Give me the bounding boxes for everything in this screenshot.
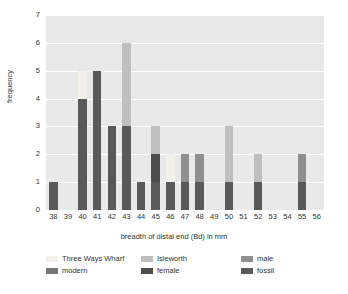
bar-44 (137, 182, 145, 210)
bar-48 (195, 154, 203, 210)
x-tick-label: 43 (119, 212, 134, 222)
bar-segment-isleworth (122, 43, 130, 127)
x-tick-label: 51 (236, 212, 251, 222)
legend-swatch-icon (46, 268, 58, 274)
chart-legend: Three Ways WharfIsleworthmalemodernfemal… (46, 254, 336, 284)
bar-segment-fossil (298, 182, 306, 210)
legend-label: Three Ways Wharf (62, 254, 124, 263)
legend-swatch-icon (141, 268, 153, 274)
y-tick-label: 7 (6, 11, 40, 19)
x-tick-label: 49 (207, 212, 222, 222)
x-tick-label: 46 (163, 212, 178, 222)
x-tick-label: 56 (309, 212, 324, 222)
x-axis-ticks: 38394041424344454647484950515253545556 (46, 212, 324, 224)
bar-segment-fossil (49, 182, 57, 210)
legend-label: male (257, 254, 273, 263)
bar-segment-fossil (225, 182, 233, 210)
x-tick-label: 41 (90, 212, 105, 222)
bar-segment-fossil (166, 182, 174, 210)
legend-label: fossil (257, 266, 274, 275)
plot-area (46, 15, 324, 210)
legend-item-fossil[interactable]: fossil (241, 266, 274, 275)
bar-segment-fossil (195, 182, 203, 210)
legend-label: modern (62, 266, 87, 275)
x-tick-label: 44 (134, 212, 149, 222)
bar-40 (78, 71, 86, 210)
legend-item-male[interactable]: male (241, 254, 273, 263)
legend-swatch-icon (241, 256, 253, 262)
y-axis-label: frequency (5, 52, 14, 122)
legend-item-three-ways-wharf[interactable]: Three Ways Wharf (46, 254, 124, 263)
bar-segment-fossil (78, 99, 86, 210)
legend-label: female (157, 266, 180, 275)
chart-figure: 01234567 frequency 383940414243444546474… (0, 0, 348, 294)
bar-47 (181, 154, 189, 210)
gridline (46, 126, 324, 127)
gridline (46, 15, 324, 16)
x-axis-label: breadth of distal end (Bd) in mm (0, 232, 348, 241)
bar-52 (254, 154, 262, 210)
x-tick-label: 40 (75, 212, 90, 222)
x-tick-label: 47 (178, 212, 193, 222)
bar-segment-fossil (122, 126, 130, 210)
bar-segment-fossil (151, 182, 159, 210)
bar-segment-female (151, 154, 159, 182)
x-tick-label: 38 (46, 212, 61, 222)
legend-swatch-icon (46, 256, 58, 262)
bar-segment-three-ways-wharf (166, 154, 174, 182)
x-tick-label: 39 (61, 212, 76, 222)
x-tick-label: 55 (295, 212, 310, 222)
bar-segment-fossil (93, 71, 101, 210)
x-tick-label: 42 (105, 212, 120, 222)
y-tick-label: 6 (6, 39, 40, 47)
bar-segment-isleworth (151, 126, 159, 154)
bar-segment-fossil (181, 182, 189, 210)
bar-43 (122, 43, 130, 210)
x-tick-label: 50 (222, 212, 237, 222)
x-tick-label: 52 (251, 212, 266, 222)
bar-segment-fossil (137, 182, 145, 210)
bar-segment-fossil (254, 182, 262, 210)
legend-swatch-icon (141, 256, 153, 262)
legend-swatch-icon (241, 268, 253, 274)
bar-segment-isleworth (225, 126, 233, 182)
y-tick-label: 1 (6, 178, 40, 186)
bar-50 (225, 126, 233, 210)
x-tick-label: 48 (192, 212, 207, 222)
bar-46 (166, 154, 174, 210)
bar-segment-male (195, 154, 203, 182)
legend-item-isleworth[interactable]: Isleworth (141, 254, 187, 263)
bar-segment-male (181, 154, 189, 182)
bar-45 (151, 126, 159, 210)
y-tick-label: 0 (6, 206, 40, 214)
bar-segment-fossil (108, 126, 116, 210)
bar-42 (108, 126, 116, 210)
bar-segment-isleworth (254, 154, 262, 182)
legend-item-female[interactable]: female (141, 266, 180, 275)
bar-segment-three-ways-wharf (78, 71, 86, 99)
x-tick-label: 54 (280, 212, 295, 222)
x-tick-label: 45 (148, 212, 163, 222)
gridline (46, 71, 324, 72)
bar-segment-male (298, 154, 306, 182)
bar-55 (298, 154, 306, 210)
gridline (46, 43, 324, 44)
x-tick-label: 53 (265, 212, 280, 222)
y-tick-label: 2 (6, 150, 40, 158)
y-tick-label: 3 (6, 122, 40, 130)
gridline (46, 99, 324, 100)
legend-item-modern[interactable]: modern (46, 266, 87, 275)
bar-41 (93, 71, 101, 210)
bar-38 (49, 182, 57, 210)
legend-label: Isleworth (157, 254, 187, 263)
